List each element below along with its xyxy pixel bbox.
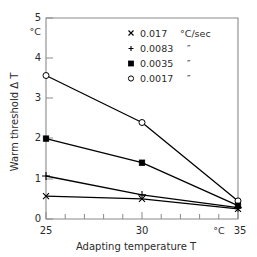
x-tick-label-25: 25 [40, 225, 53, 236]
marker-filled-square [139, 160, 144, 165]
x-tick-label-35: 35 [234, 225, 247, 236]
warm-threshold-line-chart: 5 4 3 2 1 0 °C 25 30 35 °C Adapting temp… [0, 0, 257, 257]
x-axis-title: Adapting temperature T [76, 241, 197, 252]
legend-marker-plus-icon [129, 46, 134, 51]
y-axis-ticks [46, 18, 53, 219]
legend: 0.017 °C/sec 0.0083 ″ 0.0035 ″ 0.0017 ″ [128, 28, 210, 85]
legend-label-3: 0.0017 [140, 73, 173, 84]
legend-item-1: 0.0083 ″ [129, 43, 192, 54]
y-tick-label-5: 5 [35, 12, 41, 23]
legend-label-1: 0.0083 [140, 43, 173, 54]
x-axis-ticks [46, 212, 238, 219]
chart-figure: 5 4 3 2 1 0 °C 25 30 35 °C Adapting temp… [0, 0, 257, 257]
markers-series-0017 [43, 73, 241, 204]
y-axis-tick-labels: 5 4 3 2 1 0 [35, 12, 41, 224]
y-axis-title: Warm threshold Δ T [9, 72, 20, 172]
y-tick-label-0: 0 [35, 213, 41, 224]
legend-label-2: 0.0035 [140, 58, 173, 69]
legend-item-2: 0.0035 ″ [129, 58, 192, 69]
legend-label-0: 0.017 [140, 28, 167, 39]
y-tick-label-3: 3 [35, 92, 41, 103]
legend-unit-2: ″ [187, 58, 191, 69]
legend-marker-open-circle-icon [128, 76, 133, 81]
legend-marker-filled-square-icon [129, 61, 134, 66]
legend-marker-cross-x-icon [129, 31, 134, 36]
marker-plus [138, 191, 146, 199]
legend-item-0: 0.017 °C/sec [129, 28, 211, 39]
legend-unit-3: ″ [187, 73, 191, 84]
marker-open-circle [43, 73, 49, 79]
x-axis-unit-label: °C [213, 225, 225, 236]
y-tick-label-1: 1 [35, 173, 41, 184]
marker-filled-square [43, 136, 48, 141]
legend-unit-1: ″ [187, 43, 191, 54]
marker-open-circle [139, 120, 145, 126]
y-axis-unit-label: °C [30, 26, 42, 37]
y-tick-label-2: 2 [35, 132, 41, 143]
legend-item-3: 0.0017 ″ [128, 73, 191, 84]
x-tick-label-30: 30 [136, 225, 149, 236]
y-tick-label-4: 4 [35, 52, 41, 63]
legend-unit-0: °C/sec [180, 28, 211, 39]
